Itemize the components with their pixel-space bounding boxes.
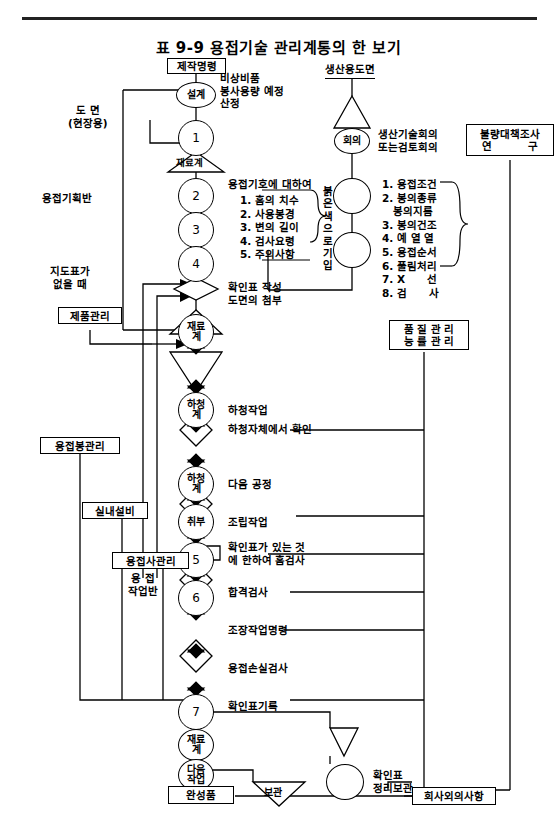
node-4[interactable]: 4 bbox=[178, 246, 214, 282]
label-emergency: 비상비품 봉사용량 예정 산정 bbox=[220, 72, 284, 110]
box-indoor-equipment[interactable]: 실내설비 bbox=[82, 502, 148, 519]
label-pass-inspection: 합격검사 bbox=[228, 586, 268, 599]
node-1[interactable]: 1 bbox=[178, 120, 214, 156]
label-drawing-site: 도 면 (현장용) bbox=[68, 104, 108, 129]
list-weld-symbol: 1. 홈의 치수 2. 사용봉경 3. 변의 길이 4. 검사요령 5. 주의사… bbox=[240, 194, 299, 262]
label-production-drawing: 생산용도면 bbox=[325, 63, 375, 79]
label-next-process: 다음 공정 bbox=[228, 478, 272, 491]
box-weld-rod-control[interactable]: 용접봉관리 bbox=[40, 437, 120, 454]
label-confirm-sheet: 확인표 작성 도면의 첨부 bbox=[228, 281, 282, 306]
node-subcontract-2[interactable]: 하청 계 bbox=[178, 466, 214, 502]
label-confirm-record: 확인표기록 bbox=[228, 700, 278, 713]
node-design[interactable]: 설계 bbox=[176, 82, 216, 108]
box-company-outside[interactable]: 회사외의사항 bbox=[412, 787, 496, 805]
label-red-ink: 붉 은 색 으 로 기 입 bbox=[322, 185, 334, 272]
node-6[interactable]: 6 bbox=[178, 580, 214, 616]
box-defect-research[interactable]: 불량대책조사 연 구 bbox=[466, 124, 554, 156]
label-weld-work-group: 용 접 작업반 bbox=[128, 572, 158, 597]
label-confirm-storage: 확인표 정리보관 bbox=[373, 769, 413, 794]
diagram-canvas: 표 9-9 용접기술 관리계통의 한 보기 bbox=[0, 0, 557, 836]
label-storage: 보관 bbox=[264, 787, 282, 800]
label-weld-plan-board: 용접기획반 bbox=[42, 192, 92, 205]
node-confirm-storage-circle[interactable] bbox=[326, 764, 364, 800]
box-manufacturing-order[interactable]: 제작명령 bbox=[167, 58, 226, 74]
label-weld-loss-inspection: 용접손실검사 bbox=[228, 662, 288, 675]
box-finished-product[interactable]: 완성품 bbox=[168, 786, 234, 804]
list-meeting-items: 1. 용접조건 2. 봉의종류 봉의지름 3. 봉의건조 4. 예 열 열 5.… bbox=[382, 178, 439, 300]
box-welder-control[interactable]: 용접사관리 bbox=[112, 552, 189, 569]
label-production-tech-meeting: 생산기술회의 또는검토회의 bbox=[378, 128, 438, 153]
node-handler[interactable]: 취부 bbox=[178, 504, 214, 540]
label-no-guide-sheet: 지도표가 없을 때 bbox=[50, 265, 90, 290]
label-subcontract-check: 하청자체에서 확인 bbox=[228, 423, 312, 436]
node-subcontract-1[interactable]: 하청 계 bbox=[178, 392, 214, 428]
node-7[interactable]: 7 bbox=[178, 694, 214, 730]
label-assembly-work: 조립작업 bbox=[228, 516, 268, 529]
node-2[interactable]: 2 bbox=[178, 178, 214, 214]
node-meeting-circle-2[interactable] bbox=[333, 232, 371, 268]
label-material-dept-1: 재료계 bbox=[176, 157, 203, 170]
label-foreman-order: 조장작업명령 bbox=[228, 624, 288, 637]
node-material-dept-3[interactable]: 재료 계 bbox=[178, 729, 214, 761]
node-3[interactable]: 3 bbox=[178, 212, 214, 248]
node-meeting[interactable]: 회의 bbox=[334, 128, 370, 154]
node-material-dept-2[interactable]: 재료 계 bbox=[178, 314, 214, 350]
label-weld-symbol-head: 용접기호에 대하여 bbox=[228, 178, 312, 191]
label-groove-inspection: 확인표가 있는 것 에 한하여 홈검사 bbox=[228, 541, 305, 566]
node-meeting-circle-1[interactable] bbox=[333, 178, 371, 214]
box-product-control[interactable]: 제품관리 bbox=[58, 307, 122, 324]
box-quality-efficiency[interactable]: 품 질 관 리 능 률 관 리 bbox=[389, 320, 469, 350]
label-subcontract-work: 하청작업 bbox=[228, 404, 268, 417]
